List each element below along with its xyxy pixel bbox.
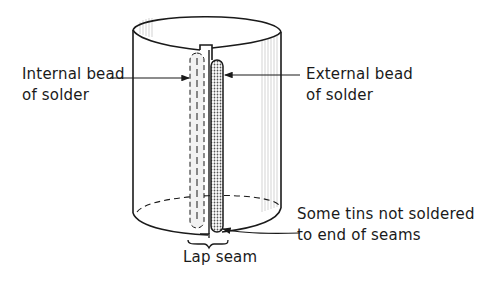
tins-not-soldered-label-line1: Some tins not soldered (297, 204, 475, 225)
lap-seam-label-text: Lap seam (183, 247, 257, 268)
right-side-shading (262, 35, 277, 212)
bottom-rim-front-right (222, 208, 281, 232)
diagram-canvas: Internal bead of solder External bead of… (0, 0, 477, 282)
internal-bead-label: Internal bead of solder (22, 64, 125, 106)
internal-bead-label-line1: Internal bead (22, 64, 125, 85)
top-rim-back (133, 17, 281, 32)
top-rim-front-right (212, 32, 281, 48)
external-bead-label-line2: of solder (306, 85, 413, 106)
bottom-rim-back-dashed (137, 195, 279, 212)
lap-seam-label: Lap seam (183, 247, 257, 268)
tins-not-soldered-label-line2: to end of seams (297, 225, 475, 246)
external-bead (211, 60, 223, 232)
internal-bead (190, 53, 204, 228)
external-bead-label: External bead of solder (306, 64, 413, 106)
seam-bottom-offset (200, 234, 209, 238)
tins-not-soldered-label: Some tins not soldered to end of seams (297, 204, 475, 246)
internal-bead-label-line2: of solder (22, 85, 125, 106)
external-bead-label-line1: External bead (306, 64, 413, 85)
